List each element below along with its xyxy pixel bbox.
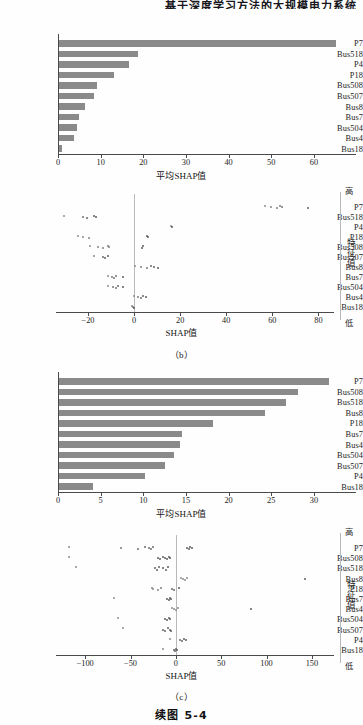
data-point [171,226,173,228]
colorbar-low-label: 低 [345,316,353,328]
bar [59,61,129,68]
data-point [89,245,91,247]
y-axis-tick-label: Bus8 [309,102,363,111]
data-point [185,639,187,641]
x-axis-tick-label: 10 [139,496,147,505]
x-axis-tick-label: 0 [174,659,178,668]
y-axis-tick-label: Bus504 [309,451,363,460]
data-point [115,287,117,289]
x-axis-tick-label: 0 [132,316,136,325]
bar [59,82,97,89]
bar [59,441,180,448]
bar [59,135,74,142]
data-point [153,266,155,268]
data-point [276,207,278,209]
data-point [113,597,115,599]
bar [59,51,138,58]
x-axis-title: SHAP值 [0,669,363,682]
data-point [133,295,135,297]
y-axis-tick-label: Bus4 [309,134,363,143]
data-point [157,267,159,269]
y-axis-tick-label: Bus18 [313,645,363,654]
y-axis-tick-label: Bus7 [309,113,363,122]
data-point [148,547,150,549]
y-axis-tick-label: Bus518 [313,213,363,222]
data-point [181,640,183,642]
data-point [152,588,154,590]
x-axis-line [58,492,356,493]
x-axis-tick-label: 5 [99,496,103,505]
bar [59,378,329,385]
y-axis-tick-label: P4 [313,223,363,232]
y-axis-tick-label: Bus504 [313,615,363,624]
y-axis-tick-label: P18 [309,419,363,428]
data-point [157,589,159,591]
data-point [170,630,172,632]
y-axis-tick-label: P18 [309,70,363,79]
x-axis-tick-label: 60 [310,158,318,167]
data-point [115,275,117,277]
y-axis-tick-label: P4 [309,472,363,481]
x-axis-tick-label: 20 [139,158,147,167]
data-point [158,566,160,568]
running-header: 基于深度学习方法的大规模电力系统 [165,0,357,9]
data-point [170,598,172,600]
y-axis-tick-label: Bus508 [309,387,363,396]
y-axis-tick-label: Bus18 [309,482,363,491]
y-axis-tick-label: Bus504 [313,283,363,292]
data-point [169,557,171,559]
y-axis-tick-label: Bus518 [309,398,363,407]
subfigure-caption-c: （c） [0,690,363,703]
data-point [140,266,142,268]
data-point [117,617,119,619]
x-axis-tick-label: −50 [124,659,137,668]
data-point [122,627,124,629]
y-axis-tick-label: Bus4 [309,440,363,449]
data-point [166,619,168,621]
y-axis-tick-label: Bus7 [309,430,363,439]
bar [59,473,145,480]
data-point [304,578,306,580]
x-axis-tick-label: 10 [96,158,104,167]
x-axis-tick-label: 50 [267,158,275,167]
bar [59,483,93,490]
y-axis-tick-label: Bus507 [313,625,363,634]
data-point [147,236,149,238]
bar [59,410,265,417]
data-point [157,557,159,559]
y-axis-tick-label: P4 [313,635,363,644]
data-point [75,566,77,568]
data-point [162,648,164,650]
colorbar-high-label: 高 [345,184,353,196]
y-axis-tick-label: P7 [309,39,363,48]
data-point [165,569,167,571]
data-point [173,589,175,591]
subfigure-caption-b: （b） [0,348,363,361]
data-point [93,255,95,257]
bar [59,462,165,469]
data-point [140,297,142,299]
x-axis-tick-label: 25 [267,496,275,505]
y-axis-tick-label: P7 [309,377,363,386]
data-point [82,216,84,218]
data-point [68,556,70,558]
zero-reference-line [176,535,177,655]
colorbar-low-label: 低 [345,659,353,671]
bar [59,420,213,427]
x-axis-tick-label: 30 [310,496,318,505]
data-point [164,630,166,632]
data-point [122,276,124,278]
data-point [102,247,104,249]
x-axis-tick-label: 0 [56,158,60,167]
x-axis-tick-label: 50 [217,659,225,668]
y-axis-tick-label: Bus18 [313,303,363,312]
data-point [270,206,272,208]
data-point [120,547,122,549]
data-point [176,649,178,651]
colorbar-high-label: 高 [345,525,353,537]
colorbar-title: 特征值 [344,580,356,610]
data-point [88,237,90,239]
bar [59,93,94,100]
x-axis-tick-label: 20 [176,316,184,325]
data-point [82,236,84,238]
